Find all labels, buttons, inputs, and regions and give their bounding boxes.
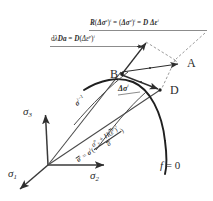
point-label-d: D — [170, 84, 179, 96]
axis-label-sigma3: σ3 — [23, 106, 32, 117]
point-label-a: A — [187, 57, 196, 69]
dashed-bottom-edge — [175, 60, 178, 64]
axis-sigma1 — [20, 165, 48, 189]
point-d-marker — [158, 88, 161, 91]
label-yield-function: f = 0 — [160, 160, 180, 171]
axis-sigma3 — [46, 115, 49, 165]
axis-label-sigma2-sub: 2 — [95, 175, 98, 182]
vector-sigma-scaled — [48, 90, 160, 165]
point-b-marker — [120, 72, 124, 76]
point-label-b: B — [110, 68, 118, 80]
axis-label-sigma3-sub: 3 — [28, 111, 31, 118]
return-mapping-diagram: R(Δσe)i = (Δσe)i = D Δεi R(Δσe)i = (Δσe)… — [0, 0, 213, 201]
label-stress-increment: Δσi — [118, 85, 129, 93]
diagram-canvas — [0, 0, 213, 201]
dashed-construction-lines — [146, 33, 205, 88]
axis-label-sigma1-sub: 1 — [13, 173, 16, 180]
axis-label-sigma2: σ2 — [90, 170, 99, 181]
axis-label-sigma1: σ1 — [8, 168, 17, 179]
midpoint-marker-2 — [140, 81, 142, 83]
equation-plastic-corrector: dλDa = D(Δεp)i — [51, 36, 95, 43]
dashed-top-edge — [146, 42, 175, 60]
midpoint-marker — [149, 67, 151, 69]
equation-elastic-predictor: R(Δσe)i = (Δσe)i = D Δεi — [90, 20, 159, 27]
